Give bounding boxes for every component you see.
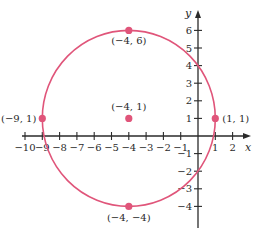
data-point xyxy=(125,27,132,34)
point-label: (1, 1) xyxy=(222,113,249,124)
y-axis-label: y xyxy=(184,7,192,20)
point-label: (−4, 1) xyxy=(111,101,146,112)
y-tick-label: 2 xyxy=(186,95,192,106)
x-tick-label: −4 xyxy=(121,142,136,153)
data-point xyxy=(125,203,132,210)
circle-graph: xy−10−9−8−7−6−5−4−3−2−112−4−3−2−1123456 … xyxy=(0,0,259,233)
x-tick-label: −5 xyxy=(104,142,119,153)
x-tick-label: 2 xyxy=(229,142,235,153)
point-label: (−4, −4) xyxy=(107,212,151,223)
y-tick-label: −1 xyxy=(177,148,192,159)
data-point xyxy=(39,115,46,122)
x-tick-label: −6 xyxy=(87,142,102,153)
y-tick-label: −2 xyxy=(177,166,192,177)
y-tick-label: 1 xyxy=(186,113,192,124)
x-tick-label: −2 xyxy=(156,142,171,153)
y-axis-arrow-icon xyxy=(195,10,201,18)
point-label: (−4, 6) xyxy=(111,35,146,46)
point-label: (−9, 1) xyxy=(1,113,36,124)
x-tick-label: −7 xyxy=(70,142,85,153)
y-tick-label: 6 xyxy=(186,25,192,36)
x-tick-label: −8 xyxy=(52,142,67,153)
x-axis-arrow-icon xyxy=(243,133,251,139)
x-axis-label: x xyxy=(245,141,252,154)
data-point xyxy=(212,115,219,122)
y-tick-label: 4 xyxy=(186,60,192,71)
x-tick-label: 1 xyxy=(212,142,218,153)
data-points: (−4, 6)(−4, 1)(−9, 1)(1, 1)(−4, −4) xyxy=(1,27,249,224)
data-point xyxy=(125,115,132,122)
y-tick-label: 3 xyxy=(186,78,192,89)
x-tick-label: −3 xyxy=(139,142,154,153)
y-tick-label: −4 xyxy=(177,201,192,212)
x-tick-label: −10 xyxy=(14,142,35,153)
